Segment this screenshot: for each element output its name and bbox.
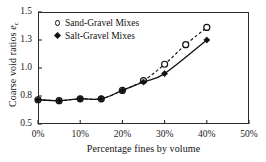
- y-axis-symbol: e: [7, 25, 18, 30]
- x-tick-label: 50%: [234, 130, 264, 140]
- chart-legend: Sand-Gravel Mixes Salt-Gravel Mixes: [53, 17, 139, 42]
- y-axis-title-text: Coarse void ratios: [7, 32, 18, 107]
- open-circle-icon: [53, 18, 64, 29]
- data-point-open-circle: [204, 24, 210, 30]
- x-tick-label: 40%: [192, 130, 222, 140]
- x-axis-title: Percentage fines by volume: [38, 143, 249, 154]
- x-tick-label: 30%: [150, 130, 180, 140]
- data-point-open-circle: [183, 42, 189, 48]
- legend-label: Salt-Gravel Mixes: [65, 30, 135, 43]
- x-tick-label: 10%: [65, 130, 95, 140]
- chart-figure: 0.50.81.01.31.5 0%10%20%30%40%50% Sand-G…: [0, 0, 266, 162]
- legend-item-salt-gravel: Salt-Gravel Mixes: [53, 30, 139, 43]
- y-axis-symbol-subscript: c: [12, 22, 20, 25]
- x-tick-label: 20%: [107, 130, 137, 140]
- y-axis-title: Coarse void ratios ec: [7, 5, 20, 125]
- data-point-open-circle: [162, 61, 168, 67]
- x-tick-label: 0%: [23, 130, 53, 140]
- legend-label: Sand-Gravel Mixes: [65, 17, 139, 30]
- filled-diamond-icon: [53, 30, 64, 41]
- legend-item-sand-gravel: Sand-Gravel Mixes: [53, 17, 139, 30]
